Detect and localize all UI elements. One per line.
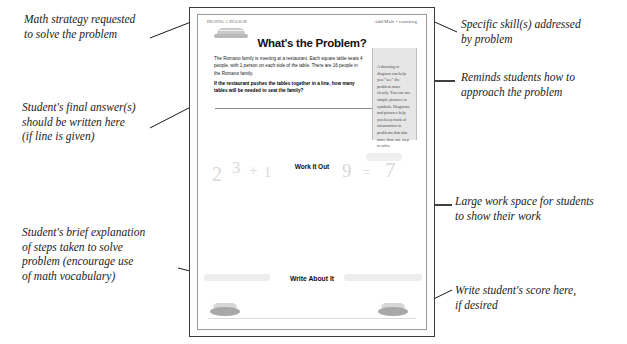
problem-question: If the restaurant pushes the tables toge… bbox=[214, 80, 365, 95]
worksheet-inner-border: Drawing a Diagram Add/Mult • counting Wh… bbox=[197, 14, 427, 330]
footer-rule bbox=[208, 318, 416, 319]
work-it-out-band: 2 3 + 1 9 = 7 Work It Out bbox=[198, 155, 426, 185]
ghost-numeral-6: 7 bbox=[385, 158, 396, 183]
write-about-it-band: Write About It bbox=[198, 270, 426, 292]
footer-decoration-icon bbox=[210, 303, 240, 316]
work-it-out-label: Work It Out bbox=[198, 163, 426, 170]
worksheet-page: Drawing a Diagram Add/Mult • counting Wh… bbox=[189, 7, 435, 337]
score-spot-icon bbox=[378, 303, 408, 316]
strategy-tip-text: A drawing or diagram can help you “see” … bbox=[377, 64, 412, 150]
annotated-worksheet-diagram: Math strategy requested to solve the pro… bbox=[0, 0, 627, 344]
worksheet-strategy-label: Drawing a Diagram bbox=[207, 19, 247, 24]
worksheet-skill-label: Add/Mult • counting bbox=[374, 19, 417, 24]
strategy-tip-box: A drawing or diagram can help you “see” … bbox=[372, 48, 417, 140]
answer-line bbox=[215, 108, 381, 109]
write-about-it-label: Write About It bbox=[198, 275, 426, 282]
problem-statement: The Romano family is meeting at a restau… bbox=[214, 55, 365, 77]
